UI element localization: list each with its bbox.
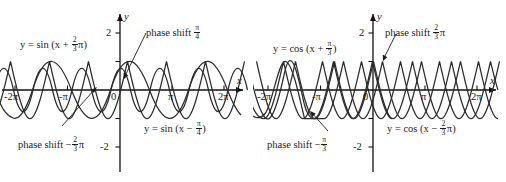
curve-label-cos-plus-prefix: y = cos (x + — [273, 43, 326, 54]
annotation-phase-shift-lower-text: phase shift − — [18, 139, 72, 150]
sine-panel: y x -2π -π 0 π 2π 2 -2 y = sin (x + 23π)… — [0, 0, 253, 182]
fraction-numerator: 2 — [72, 36, 78, 44]
annotation-phase-shift-lower: phase shift −23π — [18, 136, 84, 153]
curve-label-cos-minus-suffix: π) — [447, 123, 456, 134]
x-tick-neg-2pi: -2π — [4, 92, 18, 103]
y-tick-neg-2: -2 — [100, 142, 109, 153]
trig-phase-shift-figure: y x -2π -π 0 π 2π 2 -2 y = sin (x + 23π)… — [0, 0, 506, 182]
fraction-denominator: 3 — [321, 144, 327, 153]
x-axis — [2, 86, 243, 94]
curve-label-sin-minus: y = sin (x − π4) — [144, 120, 206, 137]
annotation-phase-shift-upper-suffix: π — [440, 27, 445, 38]
annotation-phase-shift-lower-suffix: π — [79, 139, 84, 150]
annotation-phase-shift-upper: phase shift π4 — [146, 24, 201, 41]
curve-label-cos-plus: y = cos (x + π3) — [273, 40, 336, 57]
phase-shift-upper-leader — [124, 33, 146, 79]
curve-label-sin-plus-suffix: π) — [78, 39, 87, 50]
x-tick-zero: 0 — [111, 92, 116, 103]
fraction-denominator: 4 — [194, 32, 200, 41]
annotation-phase-shift-lower: phase shift −π3 — [267, 136, 328, 153]
curve-label-cos-minus: y = cos (x − 23π) — [387, 120, 456, 137]
x-tick-pi: π — [421, 92, 426, 103]
annotation-phase-shift-upper-text: phase shift — [146, 27, 194, 38]
y-axis — [116, 14, 124, 172]
fraction-numerator: π — [326, 40, 332, 48]
fraction-numerator: 2 — [440, 120, 446, 128]
fraction-two-thirds: 23 — [433, 24, 439, 41]
x-tick-zero: 0 — [363, 92, 368, 103]
fraction-denominator: 3 — [326, 48, 332, 57]
curve-label-sin-minus-suffix: ) — [202, 123, 206, 134]
fraction-denominator: 3 — [72, 144, 78, 153]
fraction-pi-fourths: π4 — [194, 24, 200, 41]
y-axis-label: y — [124, 12, 129, 23]
annotation-phase-shift-upper-text: phase shift — [385, 27, 433, 38]
y-axis-label: y — [377, 12, 382, 23]
y-tick-2: 2 — [106, 28, 111, 39]
fraction-pi-thirds: π3 — [326, 40, 332, 57]
fraction-numerator: π — [196, 120, 202, 128]
fraction-numerator: 2 — [72, 136, 78, 144]
x-tick-2pi: 2π — [218, 92, 229, 103]
curve-label-cos-plus-suffix: ) — [333, 43, 337, 54]
curve-label-sin-minus-prefix: y = sin (x − — [144, 123, 195, 134]
fraction-denominator: 3 — [440, 128, 446, 137]
cosine-panel: y x -2π -π 0 π 2π 2 -2 y = cos (x + π3) … — [253, 0, 506, 182]
fraction-numerator: 2 — [433, 24, 439, 32]
sine-plot-canvas — [0, 0, 253, 182]
x-tick-2pi: 2π — [471, 92, 482, 103]
curve-label-cos-minus-prefix: y = cos (x − — [387, 123, 440, 134]
fraction-pi-thirds: π3 — [321, 136, 327, 153]
x-axis-label: x — [490, 76, 495, 87]
x-tick-pi: π — [168, 92, 173, 103]
y-tick-neg-2: -2 — [353, 142, 362, 153]
fraction-two-thirds: 23 — [440, 120, 446, 137]
fraction-pi-fourths: π4 — [196, 120, 202, 137]
cosine-plot-canvas — [253, 0, 506, 182]
x-tick-neg-2pi: -2π — [257, 92, 271, 103]
y-tick-2: 2 — [359, 28, 364, 39]
fraction-two-thirds: 23 — [72, 36, 78, 53]
fraction-denominator: 3 — [433, 32, 439, 41]
fraction-numerator: π — [321, 136, 327, 144]
annotation-phase-shift-lower-text: phase shift − — [267, 139, 321, 150]
curve-label-sin-plus-prefix: y = sin (x + — [20, 39, 71, 50]
fraction-numerator: π — [194, 24, 200, 32]
fraction-two-thirds: 23 — [72, 136, 78, 153]
x-tick-neg-pi: -π — [59, 92, 68, 103]
annotation-phase-shift-upper: phase shift 23π — [385, 24, 445, 41]
fraction-denominator: 4 — [196, 128, 202, 137]
x-tick-neg-pi: -π — [312, 92, 321, 103]
fraction-denominator: 3 — [72, 44, 78, 53]
x-axis-label: x — [237, 76, 242, 87]
curve-label-sin-plus: y = sin (x + 23π) — [20, 36, 87, 53]
